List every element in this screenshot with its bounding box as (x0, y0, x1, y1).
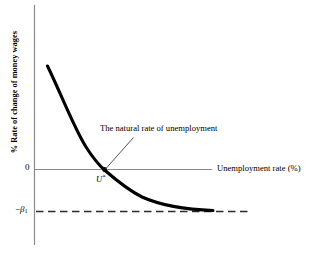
y-axis-label: % Rate of change of money wages (11, 26, 19, 158)
phillips-curve-path (48, 66, 214, 211)
natural-rate-annotation-text: The natural rate of unemployment (100, 124, 217, 133)
u-star-asterisk: * (102, 173, 106, 181)
beta-subscript: 1 (25, 207, 28, 214)
x-axis-label: Unemployment rate (%) (217, 164, 301, 173)
annotation-leader-line (106, 138, 134, 170)
phillips-curve-figure: % Rate of change of money wages 0 −β1 Un… (0, 0, 318, 255)
natural-rate-point-label: U* (96, 174, 106, 183)
y-axis-beta-tick-label: −β1 (15, 205, 28, 214)
y-axis-zero-tick-label: 0 (25, 163, 30, 172)
